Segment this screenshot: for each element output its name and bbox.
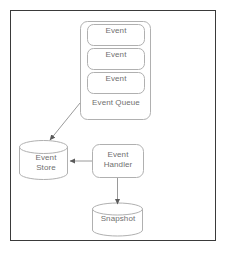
event-box-2[interactable]: [88, 49, 145, 70]
diagram-canvas: Event Event Event Event Queue Event Stor…: [0, 0, 227, 255]
event-handler-box[interactable]: [93, 145, 144, 178]
edge-queue-to-store: [50, 103, 80, 140]
snapshot-cylinder[interactable]: [92, 203, 142, 236]
diagram-shapes-layer: [0, 0, 227, 255]
event-box-1[interactable]: [88, 25, 145, 46]
event-box-3[interactable]: [88, 73, 145, 94]
event-store-cylinder[interactable]: [20, 141, 68, 180]
